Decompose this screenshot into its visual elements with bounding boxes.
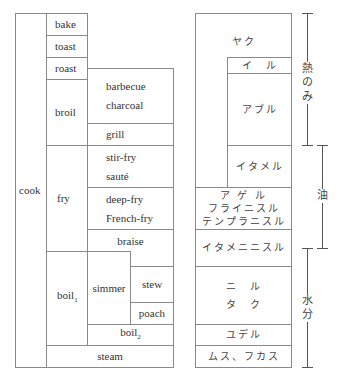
- label-fry: fry: [57, 189, 70, 208]
- label-steam: steam: [97, 347, 123, 366]
- label-toast: toast: [55, 37, 76, 56]
- cell-musu-fukasu: ムス、フカス: [195, 345, 292, 368]
- label-barbecue: barbecue: [106, 77, 146, 96]
- label-broil: broil: [55, 103, 76, 122]
- cell-cook: cook: [15, 13, 47, 368]
- cell-stirfry-saute: stir-fry sauté: [87, 145, 174, 188]
- cell-aburu: アブル: [227, 73, 292, 146]
- label-aburu: アブル: [242, 102, 278, 118]
- label-furainisuru: フライニスル: [208, 202, 280, 215]
- label-french-fry: French-fry: [106, 209, 153, 228]
- label-tempuranisuru: テンプラニスル: [202, 215, 286, 228]
- cell-ageru-group: ア ゲ ル フライニスル テンプラニスル: [195, 187, 292, 230]
- cell-itameru: イタメル: [227, 145, 292, 188]
- label-ageru: ア ゲ ル: [220, 189, 266, 202]
- cell-steam: steam: [46, 345, 174, 368]
- label-taku: タ ク: [226, 296, 262, 314]
- label-charcoal: charcoal: [106, 96, 143, 115]
- cell-stew: stew: [130, 266, 174, 303]
- cell-roast: roast: [46, 57, 88, 80]
- cell-bake: bake: [46, 13, 88, 36]
- label-itameninisuru: イタメニニスル: [202, 240, 286, 256]
- label-saute: sauté: [106, 167, 129, 186]
- cell-simmer: simmer: [87, 251, 131, 325]
- label-water: 水 分: [300, 294, 314, 322]
- cell-boil2: boil2: [87, 324, 174, 346]
- label-poach: poach: [139, 304, 165, 323]
- cell-yuderu: ユデル: [195, 324, 292, 346]
- label-heat-only: 熱 の み: [300, 62, 314, 104]
- label-stew: stew: [142, 275, 162, 294]
- cell-fry: fry: [46, 145, 88, 252]
- label-niru: ニ ル: [226, 278, 262, 296]
- label-bake: bake: [55, 15, 76, 34]
- cell-itameninisuru: イタメニニスル: [195, 229, 292, 267]
- cell-poach: poach: [130, 302, 174, 325]
- label-stir-fry: stir-fry: [106, 148, 136, 167]
- cell-grill: grill: [87, 123, 174, 146]
- label-iru: イ ル: [242, 58, 278, 74]
- label-braise: braise: [117, 232, 143, 251]
- cell-iru: イ ル: [227, 57, 292, 74]
- label-boil1: boil1: [57, 286, 78, 310]
- label-roast: roast: [55, 59, 76, 78]
- label-oil: 油: [315, 189, 329, 203]
- label-yaku: ヤク: [232, 34, 256, 50]
- label-deep-fry: deep-fry: [106, 190, 143, 209]
- label-musu-fukasu: ムス、フカス: [208, 349, 280, 365]
- cell-toast: toast: [46, 35, 88, 58]
- label-cook: cook: [19, 181, 40, 200]
- label-yuderu: ユデル: [226, 327, 262, 343]
- cell-barbecue-charcoal: barbecue charcoal: [87, 68, 174, 124]
- label-simmer: simmer: [93, 279, 126, 298]
- label-grill: grill: [106, 125, 124, 144]
- label-itameru: イタメル: [236, 159, 284, 175]
- label-boil2: boil2: [120, 323, 141, 347]
- cell-boil1: boil1: [46, 251, 88, 346]
- cell-niru-taku: ニ ル タ ク: [195, 266, 292, 325]
- cell-broil: broil: [46, 79, 88, 146]
- cell-deepfry-frenchfry: deep-fry French-fry: [87, 187, 174, 230]
